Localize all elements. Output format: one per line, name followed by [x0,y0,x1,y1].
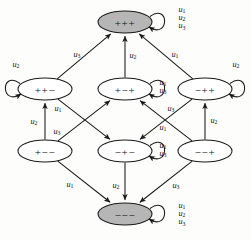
edges-layer [45,34,205,202]
state-node-mpm[interactable]: −+− [98,140,152,162]
edge-label-e-pmm-pmp: u3 [54,127,61,137]
edge-label-e-mmp-mmm: u3 [173,181,180,191]
self-loop-label-loop-mpp-u2: u2 [233,60,240,70]
node-ellipse-pmp[interactable] [98,78,152,100]
state-node-pmp[interactable]: +−+ [98,78,152,100]
self-loop-label-loop-ppp-u2: u2 [179,13,186,23]
edge-label-e-ppm-mpm: u1 [55,104,62,114]
node-ellipse-mpm[interactable] [98,140,152,162]
node-ellipse-mmp[interactable] [178,140,232,162]
self-loop-label-loop-mmm-u1: u1 [179,201,186,211]
self-loop-label-loop-mmm-u3: u3 [179,217,186,227]
self-loop-label-loop-mmm-u2: u2 [179,209,186,219]
edge-label-e-mpp-ppp: u1 [172,50,179,60]
transition-edge [140,99,192,139]
node-ellipse-mmm[interactable] [98,203,152,225]
diagram-canvas: +++++−+−+−+++−−−+−−−+−−− u3u2u1u2u3u1u3u… [0,0,251,240]
transition-edge [140,161,192,202]
node-ellipse-ppp[interactable] [98,11,152,33]
edge-labels-layer: u3u2u1u2u3u1u3u1u2u1u2u3u1u2u3u2u1u3u2u1… [13,5,240,227]
state-node-ppm[interactable]: ++− [18,78,72,100]
node-ellipse-pmm[interactable] [18,140,72,162]
self-loop-label-loop-ppm-u2: u2 [13,60,20,70]
state-node-mmm[interactable]: −−− [98,203,152,225]
transition-edge [57,34,111,79]
transition-edge [139,34,193,79]
self-loop-label-loop-mpm-u3: u3 [160,149,167,159]
transition-edge [58,101,110,141]
node-ellipse-mpp[interactable] [178,78,232,100]
edge-label-e-mmp-mpp: u2 [211,116,218,126]
state-transition-diagram: +++++−+−+−+++−−−+−−−+−−− u3u2u1u2u3u1u3u… [0,0,251,240]
transition-edge [58,99,110,139]
edge-label-e-mpm-mmm: u2 [113,181,120,191]
node-ellipse-ppm[interactable] [18,78,72,100]
state-node-ppp[interactable]: +++ [98,11,152,33]
edge-label-e-pmm-ppm: u2 [31,117,38,127]
transition-edge [58,161,110,202]
edge-label-e-pmm-mmm: u1 [67,180,74,190]
transition-edge [140,101,192,141]
state-node-pmm[interactable]: +−− [18,140,72,162]
edge-label-e-ppm-ppp: u3 [74,50,81,60]
state-node-mmp[interactable]: −−+ [178,140,232,162]
self-loop-label-loop-ppp-u1: u1 [179,5,186,15]
self-loop-label-loop-ppp-u3: u3 [179,21,186,31]
edge-label-e-pmp-ppp: u2 [130,51,137,61]
edge-label-e-mmp-pmp: u3 [168,104,175,114]
state-node-mpp[interactable]: −++ [178,78,232,100]
